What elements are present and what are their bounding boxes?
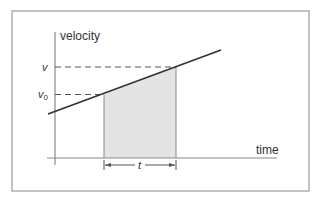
- x-axis-label: time: [256, 143, 279, 157]
- velocity-time-diagram: velocity time v v0 t: [0, 0, 317, 197]
- initial-velocity-subscript: 0: [44, 93, 49, 102]
- y-axis-label: velocity: [60, 29, 100, 43]
